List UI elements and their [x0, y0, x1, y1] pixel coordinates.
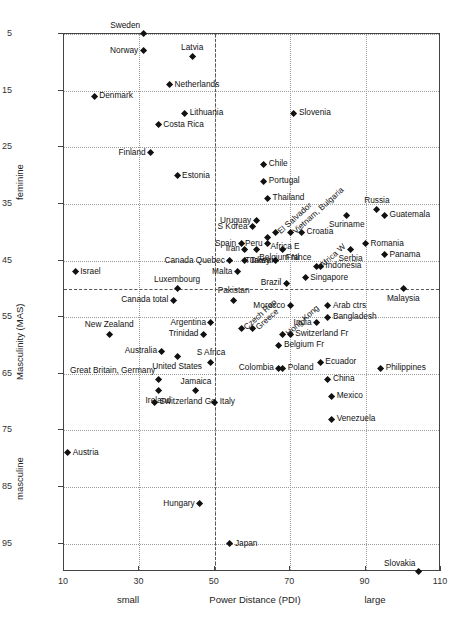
data-point-label: Guatemala	[389, 210, 430, 219]
x-tick-mark	[365, 566, 366, 571]
y-tick-label: 5	[0, 28, 12, 38]
data-point-marker	[200, 330, 207, 337]
data-point-marker	[181, 110, 188, 117]
data-point-marker	[139, 47, 146, 54]
y-tick-mark	[58, 316, 63, 317]
y-tick-label: 35	[0, 198, 12, 208]
x-tick-mark	[138, 566, 139, 571]
data-point-label: Iran	[226, 244, 240, 253]
data-point-label: Switzerland Ge	[159, 397, 215, 406]
x-axis-title: Power Distance (PDI)	[190, 594, 320, 605]
x-tick-mark	[440, 566, 441, 571]
y-tick-label: 45	[0, 255, 12, 265]
data-point-label: Singapore	[310, 273, 348, 282]
data-point-label: Argentina	[170, 318, 206, 327]
y-tick-mark	[58, 429, 63, 430]
y-tick-label: 25	[0, 141, 12, 151]
y-tick-mark	[58, 373, 63, 374]
y-tick-label: 55	[0, 311, 12, 321]
data-point-label: Switzerland Fr	[295, 329, 348, 338]
data-point-marker	[313, 319, 320, 326]
data-point-marker	[207, 319, 214, 326]
data-point-marker	[170, 296, 177, 303]
gridline-horizontal	[64, 34, 439, 35]
data-point-marker	[207, 359, 214, 366]
reference-line-mas-50	[64, 289, 439, 290]
data-point-label: Pakistan	[218, 286, 250, 295]
data-point-marker	[279, 364, 286, 371]
data-point-label: Latvia	[181, 43, 203, 52]
data-point-label: China	[333, 374, 355, 383]
data-point-label: Slovenia	[299, 108, 331, 117]
data-point-label: Canada total	[121, 295, 168, 304]
x-axis-label-large: large	[335, 594, 415, 605]
data-point-marker	[377, 364, 384, 371]
y-tick-mark	[58, 203, 63, 204]
x-tick-mark	[289, 566, 290, 571]
data-point-marker	[302, 274, 309, 281]
data-point-label: Hungary	[163, 499, 194, 508]
data-point-label: Austria	[73, 448, 99, 457]
data-point-label: Colombia	[239, 363, 274, 372]
data-point-label: Croatia	[307, 227, 334, 236]
data-point-label: Arab ctrs	[333, 301, 366, 310]
data-point-label: Russia	[364, 196, 389, 205]
data-point-label: Indonesia	[325, 261, 361, 270]
data-point-marker	[260, 161, 267, 168]
data-point-marker	[328, 393, 335, 400]
data-point-marker	[298, 229, 305, 236]
data-point-marker	[173, 172, 180, 179]
data-point-label: Jamaica	[180, 377, 211, 386]
x-tick-label: 50	[194, 576, 234, 586]
data-point-label: Philippines	[386, 363, 426, 372]
x-tick-label: 70	[269, 576, 309, 586]
x-axis-label-small: small	[88, 594, 168, 605]
data-point-label: Venezuela	[337, 414, 376, 423]
data-point-marker	[347, 246, 354, 253]
data-point-marker	[158, 347, 165, 354]
data-point-label: Turkey	[245, 256, 270, 265]
y-tick-mark	[58, 260, 63, 261]
data-point-label: Mexico	[337, 391, 363, 400]
y-tick-mark	[58, 33, 63, 34]
data-point-marker	[324, 376, 331, 383]
data-point-marker	[155, 376, 162, 383]
data-point-marker	[106, 330, 113, 337]
x-tick-mark	[63, 566, 64, 571]
data-point-label: Luxembourg	[154, 275, 200, 284]
gridline-horizontal	[64, 487, 439, 488]
data-point-marker	[64, 449, 71, 456]
data-point-label: Estonia	[182, 171, 210, 180]
y-tick-label: 15	[0, 85, 12, 95]
data-point-label: Finland	[118, 148, 145, 157]
data-point-marker	[226, 540, 233, 547]
y-tick-label: 65	[0, 368, 12, 378]
data-point-marker	[234, 268, 241, 275]
data-point-marker	[155, 121, 162, 128]
data-point-marker	[72, 268, 79, 275]
data-point-label: New Zealand	[85, 320, 134, 329]
data-point-label: Portugal	[269, 176, 300, 185]
data-point-label: Israel	[80, 267, 100, 276]
data-point-marker	[415, 568, 422, 575]
x-tick-label: 30	[118, 576, 158, 586]
data-point-marker	[283, 280, 290, 287]
data-point-marker	[343, 212, 350, 219]
data-point-label: United States	[152, 362, 202, 371]
data-point-marker	[275, 342, 282, 349]
data-point-label: Panama	[389, 250, 420, 259]
data-point-label: Australia	[125, 346, 157, 355]
data-point-marker	[173, 285, 180, 292]
data-point-label: Malaysia	[387, 294, 420, 303]
data-point-label: Romania	[371, 239, 404, 248]
data-point-marker	[373, 206, 380, 213]
data-point-marker	[90, 93, 97, 100]
data-point-label: Brazil	[261, 278, 282, 287]
data-point-label: Trinidad	[169, 329, 199, 338]
data-point-label: Malta	[212, 267, 232, 276]
y-tick-mark	[58, 486, 63, 487]
data-point-label: Belgium Fr	[284, 340, 324, 349]
x-tick-mark	[214, 566, 215, 571]
x-tick-label: 10	[43, 576, 83, 586]
data-point-label: S Africa	[197, 348, 226, 357]
